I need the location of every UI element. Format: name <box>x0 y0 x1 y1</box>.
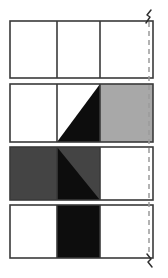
figure-canvas <box>0 0 168 278</box>
row-1 <box>10 21 153 78</box>
cell-r1c3 <box>100 21 153 78</box>
diagram-svg <box>0 0 168 278</box>
cell-r4c1 <box>10 205 57 258</box>
cell-r1c1 <box>10 21 57 78</box>
row-4 <box>10 205 153 258</box>
row-2 <box>10 84 153 142</box>
cell-r3c3 <box>100 147 153 200</box>
cell-r2c1 <box>10 84 57 142</box>
row-3 <box>10 147 153 200</box>
cell-r1c2 <box>57 21 100 78</box>
cell-r4c3 <box>100 205 153 258</box>
cell-r3c1 <box>10 147 57 200</box>
cell-r4c2 <box>57 205 100 258</box>
cell-r2c3 <box>100 84 153 142</box>
